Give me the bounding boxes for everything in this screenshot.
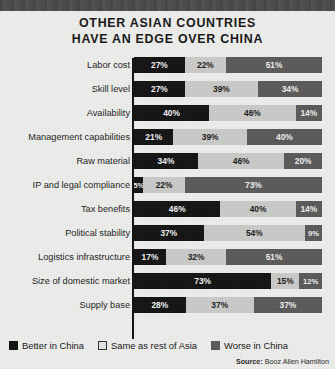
chart-row: Labor cost27%22%51% <box>0 57 335 73</box>
chart-legend: Better in ChinaSame as rest of AsiaWorse… <box>0 340 335 351</box>
chart-row: Raw material34%46%20% <box>0 153 335 169</box>
row-label: Logistics infrastructure <box>0 249 130 265</box>
chart-page: OTHER ASIAN COUNTRIES HAVE AN EDGE OVER … <box>0 0 335 369</box>
row-label: Tax benefits <box>0 201 130 217</box>
bar-segment: 28% <box>134 297 186 313</box>
bar-segment: 51% <box>226 249 322 265</box>
bar-segment: 73% <box>185 177 322 193</box>
legend-label: Better in China <box>22 340 84 351</box>
row-label: Raw material <box>0 153 130 169</box>
bar-segment: 40% <box>220 201 295 217</box>
chart-row: Availability40%46%14% <box>0 105 335 121</box>
bar-segment: 9% <box>305 225 322 241</box>
bar-segment: 5% <box>134 177 143 193</box>
bar-segment: 73% <box>134 273 271 289</box>
legend-swatch-icon <box>98 341 107 350</box>
bar-segment: 46% <box>209 105 295 121</box>
bar-segment: 27% <box>134 81 185 97</box>
row-label: Labor cost <box>0 57 130 73</box>
legend-item-worse-in-china: Worse in China <box>211 340 288 351</box>
row-label: Availability <box>0 105 130 121</box>
bar-segment: 12% <box>299 273 322 289</box>
bar-segment: 37% <box>134 225 204 241</box>
legend-swatch-icon <box>211 341 220 350</box>
top-band <box>0 0 335 11</box>
title-line-1: OTHER ASIAN COUNTRIES <box>0 15 335 31</box>
bar-segment: 34% <box>134 153 198 169</box>
chart-rows: Labor cost27%22%51%Skill level27%39%34%A… <box>0 57 335 313</box>
bar-segment: 22% <box>143 177 184 193</box>
stacked-bar: 34%46%20% <box>134 153 322 169</box>
stacked-bar: 28%37%37% <box>134 297 322 313</box>
row-label: Political stability <box>0 225 130 241</box>
bar-segment: 37% <box>186 297 254 313</box>
bar-segment: 17% <box>134 249 166 265</box>
stacked-bar: 40%46%14% <box>134 105 322 121</box>
legend-label: Same as rest of Asia <box>111 340 197 351</box>
bar-segment: 22% <box>185 57 226 73</box>
source-note: Source: Booz Allen Hamilton <box>236 357 329 366</box>
bar-segment: 46% <box>134 201 220 217</box>
stacked-bar: 27%22%51% <box>134 57 322 73</box>
row-label: Supply base <box>0 297 130 313</box>
stacked-bar: 27%39%34% <box>134 81 322 97</box>
bar-segment: 14% <box>296 105 322 121</box>
bar-segment: 40% <box>247 129 322 145</box>
legend-item-same-as-rest-of-asia: Same as rest of Asia <box>98 340 197 351</box>
stacked-bar: 21%39%40% <box>134 129 322 145</box>
chart-row: IP and legal compliance5%22%73% <box>0 177 335 193</box>
row-label: Management capabilities <box>0 129 130 145</box>
bar-segment: 32% <box>166 249 226 265</box>
chart-row: Tax benefits46%40%14% <box>0 201 335 217</box>
stacked-bar: 73%15%12% <box>134 273 322 289</box>
chart-row: Political stability37%54%9% <box>0 225 335 241</box>
bar-segment: 20% <box>284 153 322 169</box>
row-label: Skill level <box>0 81 130 97</box>
bar-segment: 37% <box>254 297 322 313</box>
bar-segment: 15% <box>271 273 299 289</box>
legend-item-better-in-china: Better in China <box>9 340 84 351</box>
chart-row: Management capabilities21%39%40% <box>0 129 335 145</box>
bar-segment: 46% <box>198 153 284 169</box>
title-line-2: HAVE AN EDGE OVER CHINA <box>0 31 335 47</box>
chart-row: Size of domestic market73%15%12% <box>0 273 335 289</box>
source-value: Booz Allen Hamilton <box>265 357 329 366</box>
stacked-bar-chart: Labor cost27%22%51%Skill level27%39%34%A… <box>0 57 335 321</box>
page-title: OTHER ASIAN COUNTRIES HAVE AN EDGE OVER … <box>0 15 335 47</box>
row-label: IP and legal compliance <box>0 177 130 193</box>
bar-segment: 39% <box>173 129 246 145</box>
bar-segment: 21% <box>134 129 173 145</box>
legend-label: Worse in China <box>224 340 288 351</box>
stacked-bar: 37%54%9% <box>134 225 322 241</box>
bar-segment: 34% <box>258 81 322 97</box>
row-label: Size of domestic market <box>0 273 130 289</box>
source-label: Source: <box>236 357 263 366</box>
chart-row: Skill level27%39%34% <box>0 81 335 97</box>
stacked-bar: 5%22%73% <box>134 177 322 193</box>
bar-segment: 51% <box>226 57 322 73</box>
bar-segment: 54% <box>204 225 306 241</box>
chart-row: Supply base28%37%37% <box>0 297 335 313</box>
bar-segment: 27% <box>134 57 185 73</box>
chart-row: Logistics infrastructure17%32%51% <box>0 249 335 265</box>
bar-segment: 14% <box>296 201 322 217</box>
legend-swatch-icon <box>9 341 18 350</box>
bar-segment: 39% <box>185 81 258 97</box>
stacked-bar: 46%40%14% <box>134 201 322 217</box>
stacked-bar: 17%32%51% <box>134 249 322 265</box>
bar-segment: 40% <box>134 105 209 121</box>
